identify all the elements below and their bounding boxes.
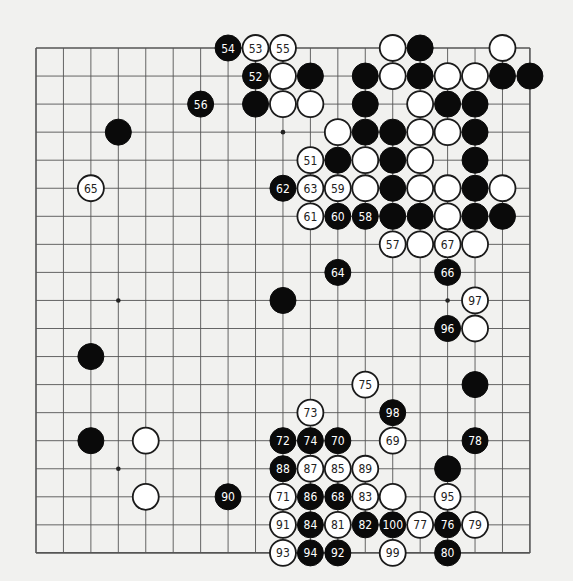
- black-stone: 86: [297, 484, 323, 510]
- black-stone: 88: [270, 456, 296, 482]
- white-stone-circle: [380, 63, 406, 89]
- white-stone: [407, 91, 433, 117]
- black-stone-circle: [105, 119, 131, 145]
- white-stone: 55: [270, 35, 296, 61]
- white-stone: [462, 316, 488, 342]
- move-number: 62: [276, 182, 290, 196]
- white-stone: [462, 231, 488, 257]
- white-stone: 77: [407, 512, 433, 538]
- black-stone: 54: [215, 35, 241, 61]
- move-number: 88: [276, 462, 290, 476]
- white-stone-circle: [270, 63, 296, 89]
- black-stone-circle: [380, 175, 406, 201]
- white-stone-circle: [407, 175, 433, 201]
- move-number: 63: [304, 182, 318, 196]
- white-stone: 85: [325, 456, 351, 482]
- black-stone-circle: [352, 63, 378, 89]
- white-stone: 71: [270, 484, 296, 510]
- white-stone: [380, 63, 406, 89]
- black-stone-circle: [435, 91, 461, 117]
- move-number: 66: [441, 266, 455, 280]
- move-number: 92: [331, 546, 345, 560]
- black-stone-circle: [407, 203, 433, 229]
- black-stone: 92: [325, 540, 351, 566]
- move-number: 67: [441, 238, 455, 252]
- black-stone-circle: [489, 203, 515, 229]
- move-number: 72: [276, 434, 290, 448]
- black-stone-circle: [462, 147, 488, 173]
- move-number: 61: [304, 210, 318, 224]
- move-number: 75: [358, 378, 372, 392]
- go-board[interactable]: 5453555256516562635961605857676466979675…: [0, 0, 573, 581]
- white-stone: [352, 147, 378, 173]
- black-stone-circle: [435, 456, 461, 482]
- move-number: 100: [382, 518, 403, 532]
- white-stone: 97: [462, 287, 488, 313]
- white-stone: [462, 63, 488, 89]
- white-stone-circle: [297, 91, 323, 117]
- move-number: 59: [331, 182, 345, 196]
- white-stone-circle: [435, 63, 461, 89]
- move-number: 93: [276, 546, 290, 560]
- black-stone-circle: [352, 91, 378, 117]
- white-stone: [435, 119, 461, 145]
- black-stone: [270, 287, 296, 313]
- white-stone-circle: [270, 91, 296, 117]
- white-stone: [325, 119, 351, 145]
- white-stone-circle: [352, 175, 378, 201]
- black-stone-circle: [380, 147, 406, 173]
- white-stone: [133, 428, 159, 454]
- white-stone: 67: [435, 231, 461, 257]
- black-stone: 56: [188, 91, 214, 117]
- white-stone: [407, 175, 433, 201]
- black-stone: 64: [325, 259, 351, 285]
- black-stone-circle: [462, 91, 488, 117]
- white-stone: [489, 175, 515, 201]
- black-stone: 94: [297, 540, 323, 566]
- white-stone-circle: [407, 231, 433, 257]
- star-point: [116, 298, 121, 303]
- white-stone-circle: [407, 91, 433, 117]
- white-stone: [380, 35, 406, 61]
- black-stone: [105, 119, 131, 145]
- black-stone: [435, 91, 461, 117]
- white-stone: 75: [352, 372, 378, 398]
- white-stone: [435, 175, 461, 201]
- black-stone: 90: [215, 484, 241, 510]
- black-stone: [407, 35, 433, 61]
- move-number: 86: [304, 490, 318, 504]
- black-stone-circle: [462, 175, 488, 201]
- move-number: 83: [358, 490, 372, 504]
- black-stone: [78, 344, 104, 370]
- white-stone-circle: [407, 119, 433, 145]
- black-stone: [380, 119, 406, 145]
- black-stone-circle: [380, 119, 406, 145]
- move-number: 79: [468, 518, 482, 532]
- white-stone: [297, 91, 323, 117]
- black-stone-circle: [462, 372, 488, 398]
- black-stone: 70: [325, 428, 351, 454]
- white-stone: 95: [435, 484, 461, 510]
- white-stone-circle: [435, 203, 461, 229]
- black-stone-circle: [380, 203, 406, 229]
- move-number: 71: [276, 490, 290, 504]
- black-stone-circle: [352, 119, 378, 145]
- black-stone: [407, 203, 433, 229]
- black-stone: 76: [435, 512, 461, 538]
- black-stone-circle: [407, 63, 433, 89]
- white-stone: 51: [297, 147, 323, 173]
- black-stone-circle: [462, 119, 488, 145]
- white-stone-circle: [462, 231, 488, 257]
- move-number: 94: [304, 546, 318, 560]
- white-stone: 69: [380, 428, 406, 454]
- black-stone: 96: [435, 316, 461, 342]
- black-stone: [489, 203, 515, 229]
- black-stone: [462, 175, 488, 201]
- black-stone: [243, 91, 269, 117]
- move-number: 97: [468, 294, 482, 308]
- move-number: 98: [386, 406, 400, 420]
- black-stone: 84: [297, 512, 323, 538]
- white-stone: [407, 231, 433, 257]
- black-stone: 82: [352, 512, 378, 538]
- black-stone: 80: [435, 540, 461, 566]
